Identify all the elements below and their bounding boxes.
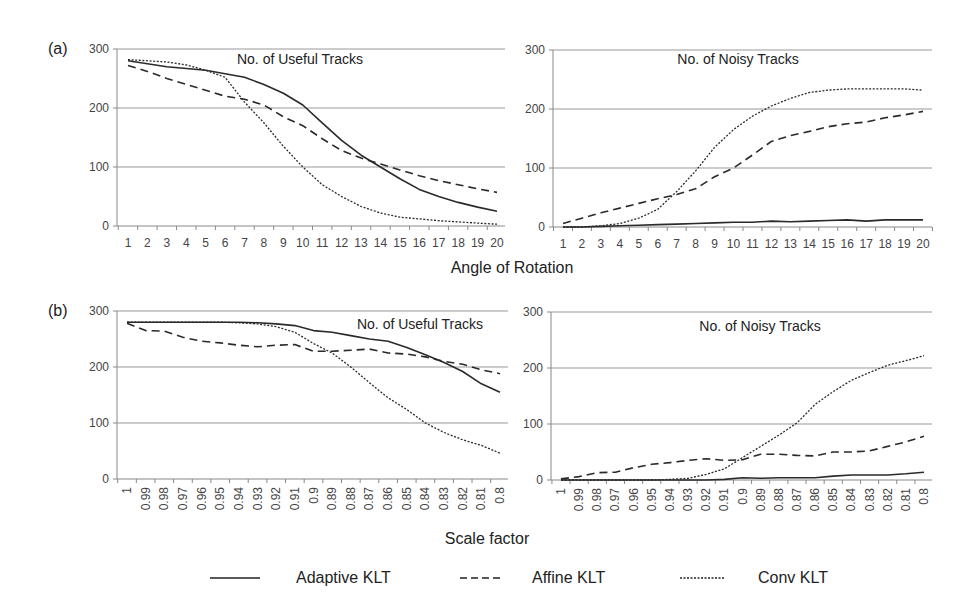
x-tick-label: 0.81 <box>474 487 488 511</box>
x-tick-label: 0.95 <box>645 488 659 512</box>
x-tick-label: 9 <box>711 237 718 251</box>
x-tick-label: 0.84 <box>844 488 858 512</box>
solid-line-swatch-icon <box>210 566 260 590</box>
x-tick-label: 17 <box>859 237 873 251</box>
x-tick-label: 6 <box>654 237 661 251</box>
chart-b-noisy-tracks: No. of Noisy Tracks 010020030010.990.980… <box>523 305 932 511</box>
x-tick-label: 5 <box>202 236 209 250</box>
x-tick-label: 0.83 <box>863 488 877 512</box>
y-tick-label: 300 <box>89 42 109 56</box>
x-tick-label: 0.83 <box>437 487 451 511</box>
x-axis-title-scale: Scale factor <box>445 530 530 547</box>
x-tick-label: 19 <box>471 236 485 250</box>
x-tick-label: 0.89 <box>754 488 768 512</box>
y-tick-label: 300 <box>523 305 543 319</box>
x-tick-label: 16 <box>413 236 427 250</box>
y-tick-label: 100 <box>89 160 109 174</box>
legend: Adaptive KLT Affine KLT Conv KLT <box>0 566 975 590</box>
x-tick-label: 0.86 <box>808 488 822 512</box>
x-tick-label: 0.94 <box>232 487 246 511</box>
x-tick-label: 5 <box>635 237 642 251</box>
x-tick-label: 0.88 <box>344 487 358 511</box>
x-tick-label: 0.98 <box>590 488 604 512</box>
x-tick-label: 0.99 <box>572 488 586 512</box>
dashed-line-swatch-icon <box>460 566 504 590</box>
y-tick-label: 100 <box>89 416 109 430</box>
x-tick-label: 1 <box>125 236 132 250</box>
x-tick-label: 0.93 <box>681 488 695 512</box>
x-tick-label: 0.86 <box>381 487 395 511</box>
y-tick-label: 200 <box>89 360 109 374</box>
series-line-dotted <box>127 322 500 453</box>
legend-label: Adaptive KLT <box>296 569 391 587</box>
legend-item-adaptive: Adaptive KLT <box>210 566 391 590</box>
series-line-dashed <box>563 111 923 223</box>
x-tick-label: 12 <box>335 236 349 250</box>
x-tick-label: 0.87 <box>362 487 376 511</box>
y-tick-label: 0 <box>102 472 109 486</box>
x-tick-label: 4 <box>616 237 623 251</box>
chart-title: No. of Noisy Tracks <box>699 318 820 334</box>
series-line-dotted <box>563 89 923 227</box>
x-tick-label: 10 <box>296 236 310 250</box>
x-tick-label: 0.93 <box>251 487 265 511</box>
x-tick-label: 0.98 <box>157 487 171 511</box>
x-tick-label: 9 <box>280 236 287 250</box>
x-tick-label: 11 <box>746 237 759 251</box>
x-tick-label: 20 <box>490 236 504 250</box>
panel-label-a: (a) <box>48 40 68 57</box>
y-tick-label: 0 <box>538 220 545 234</box>
x-tick-label: 16 <box>841 237 855 251</box>
x-tick-label: 0.82 <box>456 487 470 511</box>
x-tick-label: 20 <box>916 237 930 251</box>
panel-label-b: (b) <box>48 302 68 319</box>
x-tick-label: 0.84 <box>418 487 432 511</box>
chart-title: No. of Useful Tracks <box>357 316 483 332</box>
x-tick-label: 0.9 <box>307 487 321 504</box>
x-tick-label: 13 <box>784 237 798 251</box>
x-tick-label: 0.96 <box>195 487 209 511</box>
y-tick-label: 300 <box>525 43 545 57</box>
series-line-dashed <box>128 66 497 193</box>
chart-b-useful-tracks: No. of Useful Tracks 010020030010.990.98… <box>89 304 508 510</box>
x-tick-label: 0.81 <box>899 488 913 512</box>
y-tick-label: 200 <box>89 101 109 115</box>
y-tick-label: 0 <box>102 219 109 233</box>
y-tick-label: 300 <box>89 304 109 318</box>
legend-item-affine: Affine KLT <box>460 566 605 590</box>
x-tick-label: 2 <box>579 237 586 251</box>
series-line-dashed <box>561 436 924 479</box>
chart-title: No. of Noisy Tracks <box>677 51 798 67</box>
chart-title: No. of Useful Tracks <box>237 51 363 67</box>
x-tick-label: 0.85 <box>400 487 414 511</box>
x-tick-label: 0.8 <box>493 487 507 504</box>
x-tick-label: 0.91 <box>288 487 302 511</box>
x-tick-label: 15 <box>822 237 836 251</box>
chart-a-noisy-tracks: No. of Noisy Tracks 01002003001234567891… <box>525 43 933 251</box>
x-tick-label: 3 <box>163 236 170 250</box>
chart-a-useful-tracks: No. of Useful Tracks 0100200300123456789… <box>89 42 505 250</box>
x-tick-label: 10 <box>727 237 741 251</box>
x-tick-label: 13 <box>354 236 368 250</box>
x-tick-label: 0.91 <box>717 488 731 512</box>
x-tick-label: 0.95 <box>213 487 227 511</box>
x-tick-label: 0.97 <box>176 487 190 511</box>
x-tick-label: 0.8 <box>917 488 931 505</box>
x-tick-label: 0.97 <box>608 488 622 512</box>
series-line-solid <box>561 472 924 480</box>
x-tick-label: 7 <box>673 237 680 251</box>
x-tick-label: 17 <box>432 236 446 250</box>
x-tick-label: 8 <box>261 236 268 250</box>
x-tick-label: 14 <box>803 237 817 251</box>
x-tick-label: 1 <box>554 488 568 495</box>
legend-item-conv: Conv KLT <box>680 566 828 590</box>
legend-label: Conv KLT <box>758 569 828 587</box>
y-tick-label: 100 <box>523 417 543 431</box>
y-tick-label: 200 <box>525 102 545 116</box>
x-tick-label: 1 <box>560 237 567 251</box>
x-tick-label: 0.96 <box>627 488 641 512</box>
series-line-solid <box>127 322 500 392</box>
x-tick-label: 18 <box>878 237 892 251</box>
x-tick-label: 2 <box>144 236 151 250</box>
x-tick-label: 0.87 <box>790 488 804 512</box>
